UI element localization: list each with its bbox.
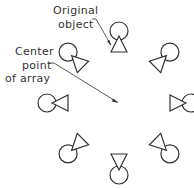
array-object-copy [170, 94, 194, 112]
array-object-copy [149, 39, 183, 73]
polar-array-diagram [0, 0, 194, 188]
arrowhead-original-object [107, 40, 111, 46]
array-object-original [110, 22, 128, 52]
arrowhead-center-point [112, 99, 119, 104]
array-object-copy [149, 133, 183, 167]
array-object-copy [55, 133, 89, 167]
array-object-copy [55, 39, 89, 73]
array-object-copy [38, 94, 68, 112]
leader-center-point [49, 63, 117, 102]
array-object-copy [110, 154, 128, 184]
